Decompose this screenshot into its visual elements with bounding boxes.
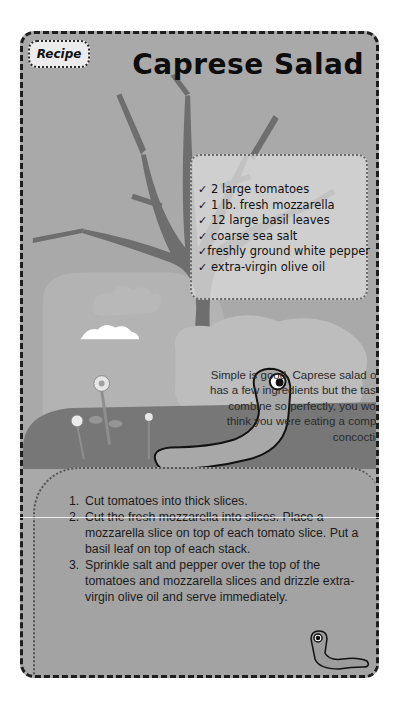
check-icon: ✓: [198, 260, 211, 276]
check-icon: ✓: [198, 182, 211, 198]
scan-line-artifact: [0, 517, 402, 518]
description-text: Simple is good. Caprese salad only has a…: [201, 368, 379, 445]
check-icon: ✓: [198, 229, 211, 245]
page-title: Caprese Salad: [132, 48, 364, 81]
ingredient-item: ✓1 lb. fresh mozzarella: [198, 198, 366, 214]
check-icon: ✓: [198, 213, 211, 229]
ingredient-item: ✓12 large basil leaves: [198, 213, 366, 229]
ingredient-item: ✓freshly ground white pepper: [198, 244, 366, 260]
check-icon: ✓: [198, 198, 211, 214]
step-item: 3.Sprinkle salt and pepper over the top …: [71, 557, 361, 605]
ingredient-item: ✓extra-virgin olive oil: [198, 260, 366, 276]
instructions-panel: 1.Cut tomatoes into thick slices. 2.Cut …: [33, 467, 379, 678]
small-worm-illustration: [303, 629, 373, 673]
ingredient-item: ✓coarse sea salt: [198, 229, 366, 245]
ingredients-panel: ✓2 large tomatoes ✓1 lb. fresh mozzarell…: [190, 154, 368, 300]
check-icon: ✓: [198, 244, 207, 260]
step-item: 1.Cut tomatoes into thick slices.: [71, 493, 361, 509]
recipe-tag: Recipe: [28, 40, 90, 68]
ingredient-item: ✓2 large tomatoes: [198, 182, 366, 198]
recipe-card: Recipe Caprese Salad ✓2 large tomatoes ✓…: [20, 31, 379, 678]
